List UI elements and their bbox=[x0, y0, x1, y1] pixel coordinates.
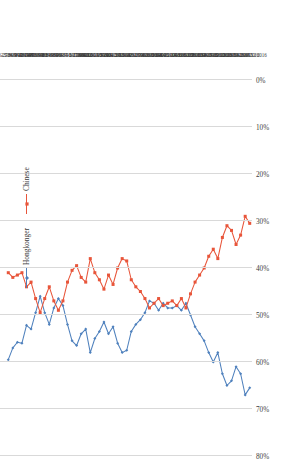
data-point-marker bbox=[157, 297, 160, 300]
series-line-hongkonger bbox=[8, 296, 249, 395]
data-point-marker bbox=[221, 236, 224, 239]
data-point-marker bbox=[180, 297, 183, 300]
data-point-marker bbox=[89, 257, 92, 260]
square-marker-icon bbox=[25, 202, 29, 206]
data-point-marker bbox=[148, 306, 151, 309]
data-point-marker bbox=[207, 255, 210, 258]
data-point-marker bbox=[239, 234, 242, 237]
data-point-marker bbox=[212, 248, 215, 251]
data-point-marker bbox=[52, 299, 55, 302]
value-axis-tick-60pct: 60% bbox=[256, 359, 269, 367]
value-axis-tick-40pct: 40% bbox=[256, 265, 269, 273]
legend-swatch-chinese bbox=[23, 194, 31, 214]
data-point-marker bbox=[153, 302, 156, 305]
data-point-marker bbox=[235, 243, 238, 246]
data-point-marker bbox=[171, 299, 174, 302]
legend-label-hongkonger: Hongkonger bbox=[22, 228, 31, 265]
data-point-marker bbox=[11, 276, 14, 279]
gridline-0pct bbox=[0, 79, 252, 80]
data-point-marker bbox=[61, 299, 64, 302]
data-point-marker bbox=[194, 281, 197, 284]
data-point-marker bbox=[130, 278, 133, 281]
gridline-80pct bbox=[0, 455, 252, 456]
data-point-marker bbox=[102, 288, 105, 291]
data-point-marker bbox=[221, 372, 224, 375]
gridline-10pct bbox=[0, 126, 252, 127]
data-point-marker bbox=[244, 215, 247, 218]
data-point-marker bbox=[66, 281, 69, 284]
chart-legend: Hongkonger Chinese bbox=[22, 167, 31, 288]
data-point-marker bbox=[198, 274, 201, 277]
data-point-marker bbox=[34, 297, 37, 300]
data-point-marker bbox=[134, 285, 137, 288]
data-point-marker bbox=[20, 342, 23, 345]
data-point-marker bbox=[230, 229, 233, 232]
data-point-marker bbox=[143, 297, 146, 300]
rotated-figure-canvas: 80%70%60%50%40%30%20%10%0% 26-27/8/19972… bbox=[0, 0, 282, 476]
data-point-marker bbox=[162, 304, 165, 307]
value-axis-tick-30pct: 30% bbox=[256, 218, 269, 226]
data-point-marker bbox=[57, 309, 60, 312]
data-point-marker bbox=[7, 271, 10, 274]
data-point-marker bbox=[139, 290, 142, 293]
data-point-marker bbox=[121, 257, 124, 260]
data-point-marker bbox=[71, 269, 74, 272]
data-point-marker bbox=[89, 351, 92, 354]
data-point-marker bbox=[189, 292, 192, 295]
data-point-marker bbox=[166, 302, 169, 305]
gridline-50pct bbox=[0, 314, 252, 315]
chart-root: 80%70%60%50%40%30%20%10%0% 26-27/8/19972… bbox=[0, 0, 282, 476]
value-axis-tick-20pct: 20% bbox=[256, 171, 269, 179]
data-point-marker bbox=[84, 281, 87, 284]
legend-swatch-hongkonger bbox=[23, 268, 31, 288]
data-point-marker bbox=[225, 224, 228, 227]
value-axis-tick-50pct: 50% bbox=[256, 312, 269, 320]
legend-item-chinese[interactable]: Chinese bbox=[22, 167, 31, 214]
data-point-marker bbox=[80, 276, 83, 279]
series-svg bbox=[0, 0, 282, 476]
plot-area: 80%70%60%50%40%30%20%10%0% 26-27/8/19972… bbox=[0, 0, 282, 476]
data-point-marker bbox=[184, 306, 187, 309]
data-point-marker bbox=[43, 297, 46, 300]
category-label: 12-13/12/2016 bbox=[238, 52, 267, 58]
value-axis-tick-10pct: 10% bbox=[256, 124, 269, 132]
data-point-marker bbox=[112, 283, 115, 286]
gridline-60pct bbox=[0, 361, 252, 362]
series-chinese bbox=[7, 215, 251, 314]
data-point-marker bbox=[48, 323, 51, 326]
gridline-30pct bbox=[0, 220, 252, 221]
data-point-marker bbox=[39, 295, 42, 298]
value-axis-tick-70pct: 70% bbox=[256, 406, 269, 414]
value-axis-tick-80pct: 80% bbox=[256, 453, 269, 461]
legend-item-hongkonger[interactable]: Hongkonger bbox=[22, 228, 31, 288]
data-point-marker bbox=[216, 257, 219, 260]
data-point-marker bbox=[48, 285, 51, 288]
data-point-marker bbox=[16, 274, 19, 277]
legend-label-chinese: Chinese bbox=[22, 167, 31, 191]
data-point-marker bbox=[98, 278, 101, 281]
gridline-40pct bbox=[0, 267, 252, 268]
diamond-marker-icon bbox=[25, 276, 29, 280]
data-point-marker bbox=[93, 271, 96, 274]
data-point-marker bbox=[248, 222, 251, 225]
gridline-70pct bbox=[0, 408, 252, 409]
value-axis-tick-0pct: 0% bbox=[256, 77, 266, 85]
data-point-marker bbox=[107, 274, 110, 277]
series-hongkonger bbox=[7, 295, 251, 397]
data-point-marker bbox=[66, 323, 69, 326]
data-point-marker bbox=[125, 259, 128, 262]
data-point-marker bbox=[175, 304, 178, 307]
gridline-20pct bbox=[0, 173, 252, 174]
